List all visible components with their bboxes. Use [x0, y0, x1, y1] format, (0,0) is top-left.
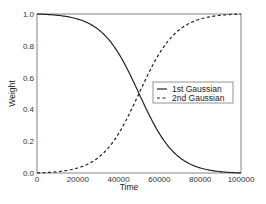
x-tick-label: 60000 — [148, 175, 171, 184]
chart: 0.00.20.40.60.81.00200004000060000800001… — [0, 0, 266, 204]
x-axis-label: Time — [120, 182, 139, 192]
y-tick-label: 0.4 — [23, 105, 35, 114]
y-tick-label: 0.8 — [23, 42, 35, 51]
x-tick-label: 20000 — [67, 175, 90, 184]
y-tick-label: 0.0 — [23, 169, 35, 178]
x-tick-label: 80000 — [189, 175, 212, 184]
legend-item-label: 2nd Gaussian — [172, 93, 225, 103]
y-tick-label: 0.6 — [23, 74, 35, 83]
x-tick-label: 100000 — [228, 175, 255, 184]
x-tick-label: 0 — [35, 175, 40, 184]
y-tick-label: 0.2 — [23, 137, 35, 146]
y-tick-label: 1.0 — [23, 10, 35, 19]
y-axis-label: Weight — [7, 80, 17, 107]
